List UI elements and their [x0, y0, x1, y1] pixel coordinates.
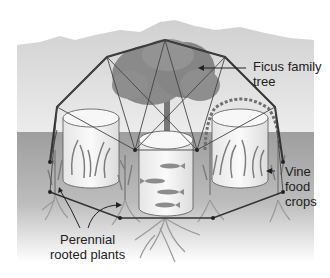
- center-fish-tank: [139, 131, 193, 216]
- vine-label: Vine food crops: [285, 164, 317, 209]
- dome-diagram: Ficus family tree Vine food crops Perenn…: [0, 0, 330, 278]
- left-tank: [63, 109, 119, 188]
- perennial-label: Perennial rooted plants: [50, 232, 125, 262]
- ficus-label: Ficus family tree: [253, 59, 322, 89]
- right-tank: [212, 109, 268, 188]
